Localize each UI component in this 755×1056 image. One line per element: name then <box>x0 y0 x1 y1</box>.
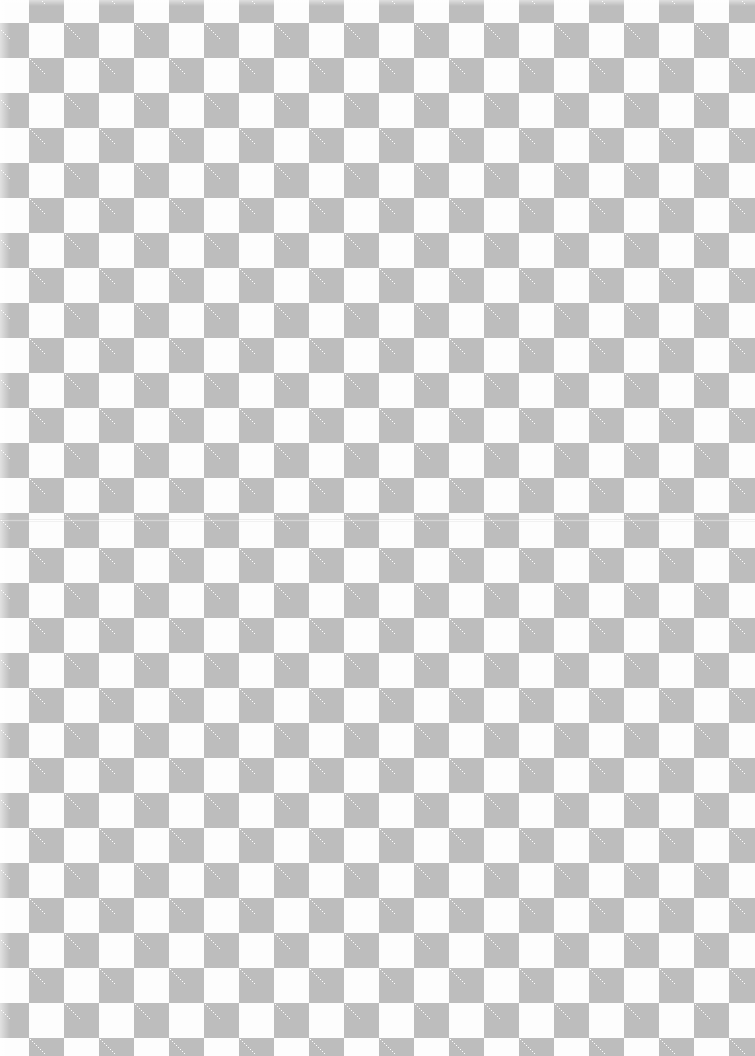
checkerboard-sheet: Scanned sheet with gray and white checke… <box>0 0 755 1056</box>
scan-edge-left <box>0 0 10 1056</box>
scan-edge-top <box>0 0 755 6</box>
fold-line <box>0 519 755 522</box>
